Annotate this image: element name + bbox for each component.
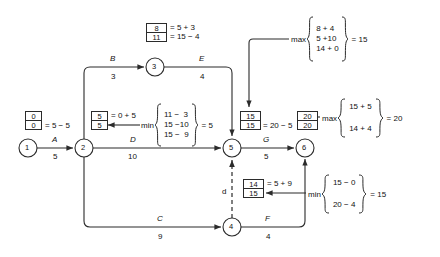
computation-node5-early-term-3: 14 + 0 (316, 44, 338, 54)
computation-node5-early-term-2: 5 +10 (316, 34, 338, 44)
edge-label-C: C (157, 215, 163, 223)
computation-node2-late-term-1: 11 − 3 (164, 110, 189, 120)
node-label-6: 6 (302, 144, 306, 152)
computation-node5-early-op: max (291, 35, 306, 44)
node-label-1: 1 (25, 144, 29, 152)
edge-duration-E: 4 (200, 73, 204, 81)
edge-duration-A: 5 (53, 153, 57, 161)
left-curly-brace-icon (306, 16, 314, 62)
node-box-2-late: 5 (92, 121, 107, 130)
left-curly-brace-icon (337, 98, 346, 138)
left-curly-brace-icon (154, 103, 162, 147)
node-label-5: 5 (229, 144, 233, 152)
node-box-5: 15 15 (240, 111, 261, 130)
node-box-6-late: 20 (298, 121, 317, 130)
edge-label-G: G (263, 136, 269, 144)
node-box-1: 0 0 (25, 111, 42, 130)
node-label-3: 3 (152, 63, 156, 71)
computation-node5-early-result: = 15 (352, 35, 368, 44)
computation-node4-late-result: = 15 (370, 190, 386, 199)
node-label-2: 2 (81, 144, 85, 152)
computation-node4-late-op: min (308, 190, 321, 199)
computation-node4-late: min 15 − 0 20 − 4 = 15 (308, 174, 386, 214)
node-box-2-note-top: = 0 + 5 (111, 112, 136, 120)
right-curly-brace-icon (341, 16, 349, 62)
computation-node6-early-result: = 20 (387, 114, 403, 123)
edge-label-E: E (199, 55, 204, 63)
node-box-4-early: 14 (244, 180, 263, 189)
right-curly-brace-icon (191, 103, 199, 147)
left-curly-brace-icon (321, 174, 330, 214)
computation-node2-late-op: min (141, 121, 154, 130)
edge-duration-G: 5 (264, 153, 268, 161)
node-label-4: 4 (229, 223, 233, 231)
node-box-3: 8 11 (146, 23, 167, 42)
computation-node6-early: max 15 + 5 14 + 4 = 20 (322, 98, 402, 138)
edge-label-A: A (52, 136, 57, 144)
edge-label-D: D (130, 136, 136, 144)
node-box-5-note: = 20 − 5 (263, 122, 292, 130)
computation-node2-late-term-3: 15 − 9 (164, 130, 189, 140)
computation-node4-late-term-1: 15 − 0 (333, 178, 355, 188)
computation-node5-early: max 8 + 4 5 +10 14 + 0 = 15 (291, 16, 367, 62)
node-box-6-early: 20 (298, 112, 317, 121)
node-box-2-early: 5 (92, 112, 107, 121)
right-curly-brace-icon (358, 174, 367, 214)
computation-node4-late-term-2: 20 − 4 (333, 200, 355, 210)
computation-node2-late-result: = 5 (202, 121, 213, 130)
edge-duration-D: 10 (128, 153, 137, 161)
node-box-1-note: = 5 − 5 (45, 122, 70, 130)
edge-label-B: B (110, 55, 115, 63)
computation-node5-early-term-1: 8 + 4 (316, 24, 338, 34)
node-box-3-note-top: = 5 + 3 (170, 24, 195, 32)
dummy-edge-label-d: d (222, 188, 226, 196)
edge-label-F: F (265, 215, 270, 223)
edge-duration-F: 4 (266, 233, 270, 241)
node-box-3-note-bottom: = 15 − 4 (170, 33, 199, 41)
computation-node6-early-op: max (322, 114, 337, 123)
node-box-2: 5 5 (91, 111, 108, 130)
computation-node6-early-term-2: 14 + 4 (349, 124, 371, 134)
node-box-5-early: 15 (241, 112, 260, 121)
edge-duration-C: 9 (158, 233, 162, 241)
node-box-4-note-top: = 5 + 9 (267, 180, 292, 188)
node-box-4-late: 15 (244, 189, 263, 198)
right-curly-brace-icon (375, 98, 384, 138)
node-box-4: 14 15 (243, 179, 264, 198)
node-box-6: 20 20 (297, 111, 318, 130)
node-box-3-late: 11 (147, 33, 166, 42)
computation-node6-early-term-1: 15 + 5 (349, 102, 371, 112)
computation-node2-late: min 11 − 3 15 −10 15 − 9 = 5 (141, 103, 213, 147)
edge-C-line (84, 157, 221, 227)
node-circles (19, 58, 314, 236)
edge-duration-B: 3 (111, 73, 115, 81)
node-box-3-early: 8 (147, 24, 166, 33)
computation-node2-late-term-2: 15 −10 (164, 120, 189, 130)
node-box-5-late: 15 (241, 121, 260, 130)
connector-node5-early (249, 39, 289, 107)
diagram-canvas: 1 2 3 4 5 6 A 5 B 3 C 9 D 10 E 4 F 4 G 5… (0, 0, 440, 257)
node-box-1-early: 0 (26, 112, 41, 121)
node-box-1-late: 0 (26, 121, 41, 130)
